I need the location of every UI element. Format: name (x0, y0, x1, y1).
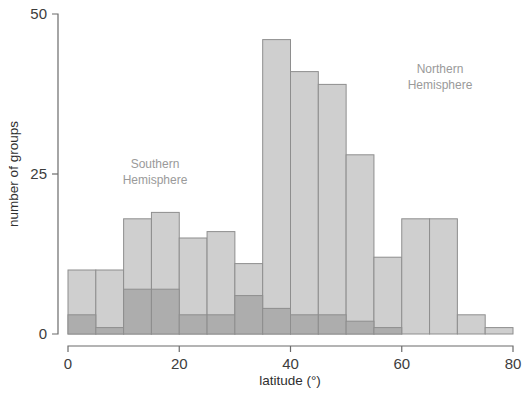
histogram-bar-southern (318, 315, 346, 334)
histogram-bar-total (318, 84, 346, 334)
histogram-bar-southern (235, 296, 263, 334)
histogram-bar-total (402, 219, 430, 334)
histogram-bar-southern (207, 315, 235, 334)
histogram-bar-southern (263, 308, 291, 334)
histogram-bar-southern (346, 321, 374, 334)
x-tick-label: 80 (505, 355, 522, 372)
x-tick-label: 60 (393, 355, 410, 372)
y-tick-label: 50 (30, 5, 47, 22)
histogram-bar-southern (68, 315, 96, 334)
y-tick-label: 25 (30, 165, 47, 182)
histogram-bar-total (263, 40, 291, 334)
northern-hemisphere-label: Hemisphere (408, 78, 473, 92)
x-axis: 020406080 latitude (°) (64, 346, 522, 388)
southern-hemisphere-label: Southern (131, 157, 180, 171)
histogram-bar-southern (179, 315, 207, 334)
y-axis: 02550 number of groups (6, 5, 58, 342)
y-axis-title: number of groups (6, 121, 21, 227)
histogram-bar-total (485, 328, 513, 334)
histogram-bar-southern (96, 328, 124, 334)
histogram-bar-southern (374, 328, 402, 334)
y-tick-label: 0 (39, 325, 47, 342)
x-tick-group: 020406080 (64, 346, 522, 372)
x-tick-label: 0 (64, 355, 72, 372)
histogram-bar-southern (291, 315, 319, 334)
y-tick-group: 02550 (30, 5, 58, 342)
histogram-chart: 02550 number of groups 020406080 latitud… (0, 0, 528, 399)
histogram-bar-total (430, 219, 458, 334)
histogram-bar-total (96, 270, 124, 334)
southern-hemisphere-label: Hemisphere (123, 173, 188, 187)
histogram-bar-total (346, 155, 374, 334)
figure-canvas: 02550 number of groups 020406080 latitud… (0, 0, 528, 399)
histogram-bar-total (374, 257, 402, 334)
x-tick-label: 20 (171, 355, 188, 372)
histogram-bar-total (457, 315, 485, 334)
x-tick-label: 40 (282, 355, 299, 372)
histogram-bar-total (291, 72, 319, 334)
northern-hemisphere-label: Northern (417, 62, 464, 76)
histogram-bar-southern (124, 289, 152, 334)
x-axis-title: latitude (°) (259, 373, 321, 388)
histogram-bar-southern (151, 289, 179, 334)
